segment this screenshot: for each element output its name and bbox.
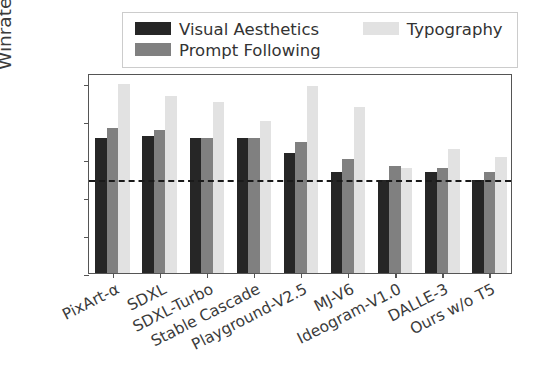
bar	[342, 159, 354, 273]
legend-label-typography: Typography	[403, 19, 507, 40]
legend-swatch-cell-0	[131, 19, 175, 40]
bar	[437, 168, 449, 273]
bar	[237, 138, 249, 273]
chance-level-line	[89, 180, 511, 182]
bar	[190, 138, 202, 273]
y-tick-mark	[84, 237, 89, 238]
bar	[248, 138, 260, 273]
bar	[165, 96, 177, 273]
x-tick-mark	[207, 273, 208, 278]
x-tick-mark	[489, 273, 490, 278]
bar	[260, 121, 272, 273]
bar	[95, 138, 107, 273]
legend-empty-swatch	[359, 40, 403, 61]
y-tick-mark	[84, 123, 89, 124]
legend-empty-label	[403, 40, 507, 61]
bar	[378, 180, 390, 273]
bar	[472, 180, 484, 273]
y-tick-mark	[84, 275, 89, 276]
bar	[142, 136, 154, 273]
bar	[484, 172, 496, 273]
plot-area: 020406080100	[88, 74, 512, 274]
x-tick-mark	[160, 273, 161, 278]
bar	[495, 157, 507, 273]
bar	[107, 128, 119, 273]
legend-label-prompt-following: Prompt Following	[175, 40, 325, 61]
y-tick-mark	[84, 85, 89, 86]
legend-swatch-prompt-following	[135, 43, 171, 56]
x-tick-mark	[348, 273, 349, 278]
legend-label-visual-aesthetics: Visual Aesthetics	[175, 19, 325, 40]
legend-swatch-typography	[363, 22, 399, 35]
bar-chart-figure: Winrate [%] 020406080100 PixArt-αSDXLSDX…	[0, 0, 534, 375]
x-tick-mark	[442, 273, 443, 278]
legend-spacer	[325, 19, 359, 40]
y-tick-mark	[84, 161, 89, 162]
bar	[284, 153, 296, 273]
bar	[401, 168, 413, 273]
bar	[213, 102, 225, 273]
y-tick-mark	[84, 199, 89, 200]
legend-swatch-cell-1	[131, 40, 175, 61]
bar	[154, 130, 166, 273]
x-tick-mark	[254, 273, 255, 278]
legend-spacer-2	[325, 40, 359, 61]
bar	[354, 107, 366, 273]
x-tick-mark	[113, 273, 114, 278]
bar	[448, 149, 460, 273]
legend-swatch-visual-aesthetics	[135, 22, 171, 35]
bar	[295, 142, 307, 273]
x-tick-mark	[395, 273, 396, 278]
bar	[331, 172, 343, 273]
bar	[118, 84, 130, 273]
legend-swatch-cell-2	[359, 19, 403, 40]
chart-legend: Visual Aesthetics Typography Prompt Foll…	[122, 12, 518, 68]
bar	[425, 172, 437, 273]
x-tick-mark	[301, 273, 302, 278]
bar	[389, 166, 401, 273]
y-axis-label: Winrate [%]	[0, 0, 15, 70]
bar	[201, 138, 213, 273]
